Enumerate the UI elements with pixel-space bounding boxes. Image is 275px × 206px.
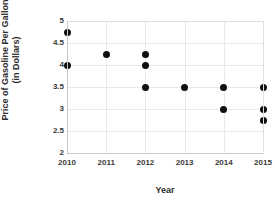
- x-tick-label: 2012: [125, 158, 165, 167]
- scatter-chart: 22.533.544.55 201020112012201320142015 P…: [0, 0, 275, 206]
- y-tick-label: 2.5: [42, 127, 64, 135]
- data-point: [142, 62, 149, 69]
- x-tick-label: 2013: [165, 158, 205, 167]
- y-tick-label: 3.5: [42, 83, 64, 91]
- x-tick-label: 2015: [243, 158, 275, 167]
- gridline-horizontal: [67, 43, 263, 44]
- x-axis-tick-labels: 201020112012201320142015: [67, 158, 263, 170]
- data-point: [220, 106, 227, 113]
- y-tick-label: 3: [42, 105, 64, 113]
- gridline-vertical: [106, 21, 107, 153]
- y-axis-title: Price of Gasoline Per Gallon (in Dollars…: [0, 0, 36, 130]
- y-tick-label: 5: [42, 17, 64, 25]
- gridline-horizontal: [67, 65, 263, 66]
- gridline-horizontal: [67, 109, 263, 110]
- axis-top-spine: [67, 21, 263, 22]
- y-tick-label: 4: [42, 61, 64, 69]
- y-axis-title-line2: (in Dollars): [11, 0, 22, 130]
- data-point: [181, 84, 188, 91]
- data-point: [103, 51, 110, 58]
- x-axis-title: Year: [67, 185, 263, 195]
- data-point: [220, 84, 227, 91]
- x-tick-label: 2014: [204, 158, 244, 167]
- y-tick-label: 2: [42, 149, 64, 157]
- y-tick-label: 4.5: [42, 39, 64, 47]
- x-axis-spine: [67, 153, 263, 154]
- x-tick-label: 2011: [86, 158, 126, 167]
- x-tick-label: 2010: [47, 158, 87, 167]
- y-axis-title-line1: Price of Gasoline Per Gallon: [0, 0, 11, 130]
- data-point: [142, 51, 149, 58]
- plot-area: [67, 21, 263, 153]
- y-axis-spine: [67, 21, 68, 154]
- y-axis-tick-labels: 22.533.544.55: [38, 21, 64, 153]
- data-point: [142, 84, 149, 91]
- gridline-horizontal: [67, 87, 263, 88]
- gridline-horizontal: [67, 131, 263, 132]
- axis-right-spine: [263, 21, 264, 154]
